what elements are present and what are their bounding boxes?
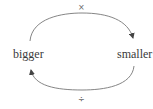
node-bigger: bigger xyxy=(13,48,44,60)
divide-label: ÷ xyxy=(78,96,85,104)
divide-arc xyxy=(31,66,134,90)
multiply-arc xyxy=(30,13,133,41)
multiply-label: × xyxy=(78,4,85,12)
node-smaller: smaller xyxy=(117,48,152,60)
